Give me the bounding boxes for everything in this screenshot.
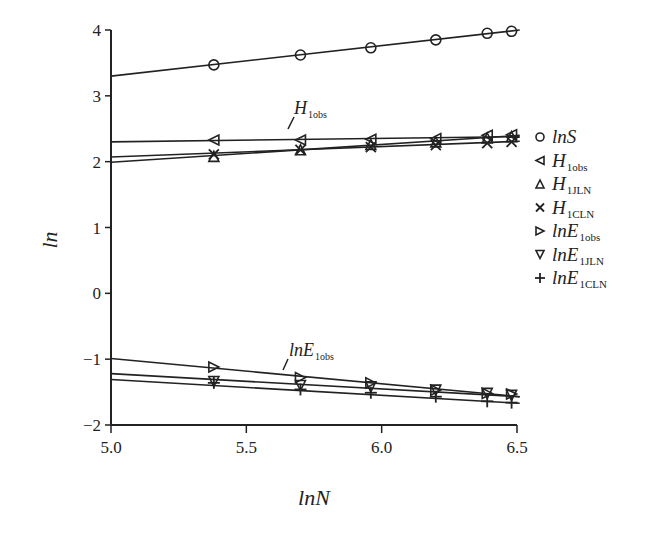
series-H1JLN (209, 132, 517, 162)
legend-label: H1obs (551, 150, 588, 173)
legend: lnSH1obsH1JLNH1CLNlnE1obslnE1JLNlnE1CLN (535, 126, 607, 290)
fit-lines (111, 30, 520, 403)
annotation-leader-h (288, 117, 294, 129)
triangle-down-marker (536, 251, 544, 259)
x-tick-label: 6.0 (371, 438, 392, 457)
legend-label: lnE1obs (552, 220, 600, 243)
legend-label: lnS (552, 126, 577, 147)
annotation-h1obs: H1obs (293, 98, 327, 120)
triangle-up-marker (536, 180, 544, 188)
data-markers (208, 26, 518, 408)
x-tick-label: 5.5 (236, 438, 257, 457)
plus-marker (535, 273, 545, 283)
legend-item-lnE1CLN: lnE1CLN (535, 267, 607, 290)
legend-item-H1JLN: H1JLN (536, 173, 591, 196)
y-tick-label: 3 (93, 87, 102, 106)
legend-item-H1obs: H1obs (536, 150, 588, 173)
y-tick-label: 2 (93, 153, 102, 172)
chart: 43210−1−25.05.56.06.5 H1obs lnE1obs ln l… (0, 0, 648, 540)
y-tick-label: 4 (93, 21, 102, 40)
x-axis-title: lnN (298, 485, 331, 510)
legend-item-lnE1obs: lnE1obs (536, 220, 600, 243)
annotation-leader-e (283, 359, 288, 370)
fit-line-H1CLN (111, 141, 520, 157)
triangle-right-marker (536, 227, 544, 235)
legend-item-H1CLN: H1CLN (536, 197, 594, 220)
y-axis-title: ln (37, 231, 62, 248)
triangle-left-marker (536, 157, 544, 165)
legend-label: H1CLN (551, 197, 594, 220)
legend-item-lnS: lnS (536, 126, 577, 147)
y-tick-label: −1 (83, 350, 101, 369)
legend-label: lnE1JLN (552, 244, 604, 267)
x-marker (536, 204, 544, 212)
y-tick-label: 0 (93, 284, 102, 303)
annotation-lne1obs: lnE1obs (289, 340, 334, 362)
circle-marker (536, 133, 544, 141)
y-tick-label: 1 (93, 219, 102, 238)
legend-item-lnE1JLN: lnE1JLN (536, 244, 604, 267)
legend-label: H1JLN (551, 173, 591, 196)
x-tick-label: 6.5 (506, 438, 527, 457)
legend-label: lnE1CLN (552, 267, 607, 290)
x-tick-label: 5.0 (100, 438, 121, 457)
fit-line-lnS (111, 30, 520, 76)
y-tick-label: −2 (83, 416, 101, 435)
